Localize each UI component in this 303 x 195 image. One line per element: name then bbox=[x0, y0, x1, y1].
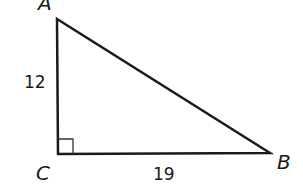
triangle-diagram: A B C 12 19 bbox=[0, 0, 303, 195]
side-label-cb: 19 bbox=[153, 164, 175, 184]
vertex-label-b: B bbox=[277, 150, 291, 174]
vertex-label-c: C bbox=[36, 161, 50, 185]
triangle-abc bbox=[57, 19, 270, 154]
right-angle-marker bbox=[58, 139, 73, 154]
side-label-ac: 12 bbox=[24, 72, 46, 92]
vertex-label-a: A bbox=[36, 0, 52, 15]
